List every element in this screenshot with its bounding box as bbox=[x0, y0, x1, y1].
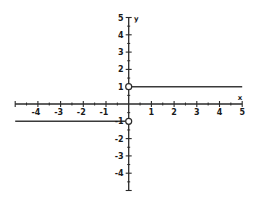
open-point-negative bbox=[126, 118, 132, 124]
y-axis-label: y bbox=[134, 15, 139, 23]
y-tick-label: 4 bbox=[118, 31, 124, 40]
x-tick-label: -2 bbox=[77, 108, 86, 117]
open-point-positive bbox=[126, 84, 132, 90]
y-tick-label: 2 bbox=[118, 65, 124, 74]
x-axis-label: x bbox=[238, 94, 243, 102]
x-tick-label: 2 bbox=[171, 108, 177, 117]
x-tick-label: -3 bbox=[54, 108, 63, 117]
x-tick-label: 5 bbox=[239, 108, 245, 117]
y-tick-labels: 54321-1-2-3-4 bbox=[115, 14, 124, 179]
y-tick-label: -2 bbox=[115, 135, 124, 144]
step-function-plot: -4-3-2-112345 54321-1-2-3-4 x y bbox=[0, 0, 257, 203]
x-tick-label: -1 bbox=[100, 108, 109, 117]
x-tick-labels: -4-3-2-112345 bbox=[31, 108, 245, 117]
y-tick-label: 1 bbox=[118, 83, 124, 92]
y-tick-label: -1 bbox=[115, 117, 124, 126]
x-tick-label: -4 bbox=[31, 108, 40, 117]
x-tick-label: 3 bbox=[194, 108, 200, 117]
y-tick-label: 3 bbox=[118, 48, 124, 57]
y-tick-label: -4 bbox=[115, 169, 124, 178]
x-tick-label: 4 bbox=[217, 108, 223, 117]
y-tick-label: 5 bbox=[118, 14, 124, 23]
y-tick-label: -3 bbox=[115, 152, 124, 161]
x-tick-label: 1 bbox=[149, 108, 155, 117]
